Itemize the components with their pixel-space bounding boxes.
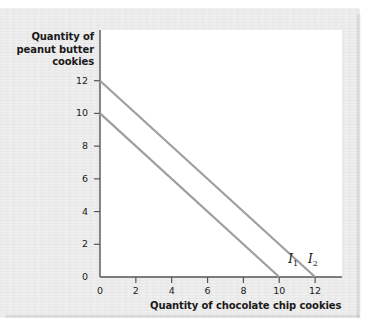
tick-marks [94,81,315,283]
y-tick-label-0: 0 [66,271,88,282]
x-tick-label-12: 12 [304,285,326,296]
curve-label-I1: I1 [288,252,298,268]
y-tick-label-2: 2 [66,238,88,249]
curve-label-subscript: 1 [293,259,298,268]
x-axis-title: Quantity of chocolate chip cookies [150,300,360,313]
data-lines [100,81,315,277]
y-tick-label-12: 12 [66,75,88,86]
y-tick-label-10: 10 [66,107,88,118]
curve-label-subscript: 2 [313,259,318,268]
figure-container: Quantity of peanut butter cookies Quanti… [0,0,372,327]
x-tick-label-2: 2 [125,285,147,296]
y-axis-title: Quantity of peanut butter cookies [8,31,94,69]
x-tick-label-10: 10 [268,285,290,296]
y-tick-label-4: 4 [66,206,88,217]
x-tick-label-6: 6 [197,285,219,296]
y-tick-label-8: 8 [66,140,88,151]
y-tick-label-6: 6 [66,173,88,184]
x-tick-label-0: 0 [89,285,111,296]
curve-label-I2: I2 [308,252,318,268]
x-tick-label-8: 8 [232,285,254,296]
x-tick-label-4: 4 [161,285,183,296]
axes [100,30,342,277]
